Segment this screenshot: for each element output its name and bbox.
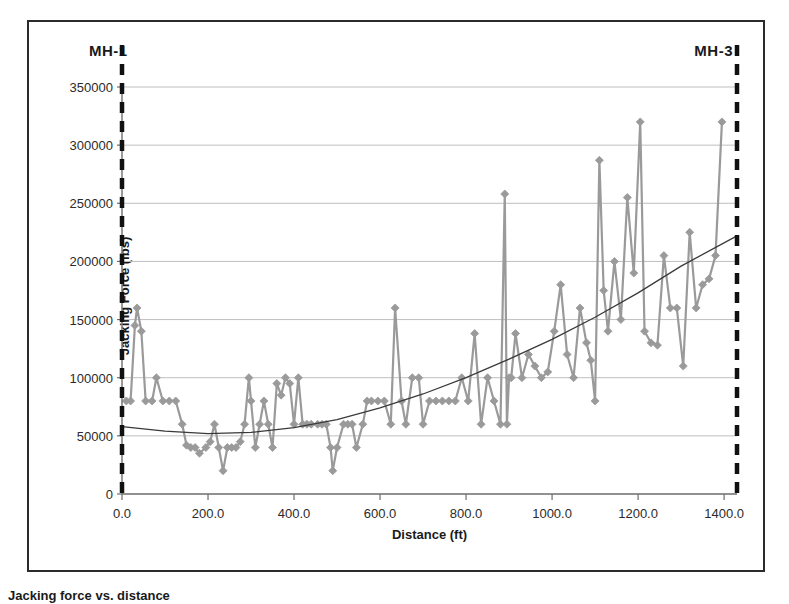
data-point-marker <box>711 252 719 260</box>
x-tick-marks <box>122 494 724 500</box>
data-point-marker <box>273 380 281 388</box>
data-point-marker <box>137 327 145 335</box>
data-point-marker <box>518 374 526 382</box>
data-point-marker <box>131 321 139 329</box>
data-point-marker <box>152 374 160 382</box>
data-series-markers <box>122 118 726 475</box>
data-point-marker <box>512 330 520 338</box>
data-point-marker <box>172 397 180 405</box>
x-axis-title: Distance (ft) <box>122 527 737 542</box>
data-point-marker <box>718 118 726 126</box>
data-point-marker <box>133 304 141 312</box>
data-point-marker <box>503 420 511 428</box>
data-point-marker <box>563 350 571 358</box>
data-point-marker <box>623 193 631 201</box>
data-point-marker <box>178 420 186 428</box>
x-tick-label: 600.0 <box>364 506 397 521</box>
data-point-marker <box>277 391 285 399</box>
data-point-marker <box>591 397 599 405</box>
data-point-marker <box>610 257 618 265</box>
y-tick-label: 100000 <box>70 370 113 385</box>
data-point-marker <box>557 281 565 289</box>
data-point-marker <box>484 374 492 382</box>
x-tick-label: 0.0 <box>113 506 131 521</box>
data-point-marker <box>333 443 341 451</box>
y-tick-label: 300000 <box>70 138 113 153</box>
plot-area: 0500001000001500002000002500003000003500… <box>122 87 737 494</box>
y-tick-label: 350000 <box>70 80 113 95</box>
data-point-marker <box>477 420 485 428</box>
data-point-marker <box>294 374 302 382</box>
data-point-marker <box>576 304 584 312</box>
x-tick-label: 1400.0 <box>704 506 744 521</box>
data-point-marker <box>617 316 625 324</box>
data-point-marker <box>419 420 427 428</box>
data-point-marker <box>387 420 395 428</box>
data-point-marker <box>582 339 590 347</box>
manhole-label-end: MH-3 <box>694 42 733 59</box>
data-point-marker <box>402 420 410 428</box>
y-tick-label: 200000 <box>70 254 113 269</box>
data-point-marker <box>471 330 479 338</box>
data-point-marker <box>245 374 253 382</box>
data-point-marker <box>630 269 638 277</box>
data-point-marker <box>241 420 249 428</box>
gridlines <box>122 87 737 436</box>
y-tick-label: 250000 <box>70 196 113 211</box>
y-tick-label: 50000 <box>77 428 113 443</box>
data-point-marker <box>415 374 423 382</box>
data-point-marker <box>210 420 218 428</box>
data-point-marker <box>215 443 223 451</box>
figure-caption: Jacking force vs. distance <box>8 588 170 603</box>
data-point-marker <box>380 397 388 405</box>
data-point-marker <box>219 467 227 475</box>
data-point-marker <box>501 190 509 198</box>
x-tick-label: 200.0 <box>192 506 225 521</box>
x-tick-label: 1200.0 <box>618 506 658 521</box>
data-point-marker <box>673 304 681 312</box>
x-tick-label: 800.0 <box>450 506 483 521</box>
data-point-marker <box>329 467 337 475</box>
data-point-marker <box>570 374 578 382</box>
data-point-marker <box>269 443 277 451</box>
x-tick-label: 400.0 <box>278 506 311 521</box>
data-point-marker <box>604 327 612 335</box>
data-point-marker <box>587 356 595 364</box>
data-point-marker <box>550 327 558 335</box>
data-point-marker <box>264 420 272 428</box>
data-point-marker <box>256 420 264 428</box>
data-point-marker <box>595 156 603 164</box>
data-point-marker <box>660 252 668 260</box>
data-point-marker <box>260 397 268 405</box>
data-point-marker <box>148 397 156 405</box>
data-point-marker <box>391 304 399 312</box>
data-point-marker <box>247 397 255 405</box>
chart-canvas <box>122 87 737 494</box>
x-tick-label: 1000.0 <box>532 506 572 521</box>
data-point-marker <box>490 397 498 405</box>
data-point-marker <box>636 118 644 126</box>
data-point-marker <box>686 228 694 236</box>
data-point-marker <box>352 443 360 451</box>
y-tick-label: 150000 <box>70 312 113 327</box>
y-tick-label: 0 <box>106 487 113 502</box>
data-point-marker <box>464 397 472 405</box>
data-point-marker <box>359 420 367 428</box>
data-point-marker <box>692 304 700 312</box>
data-point-marker <box>451 397 459 405</box>
data-point-marker <box>251 443 259 451</box>
figure-frame: MH-1 MH-3 Jacking Force (lbs) Distance (… <box>27 20 765 572</box>
data-point-marker <box>679 362 687 370</box>
data-point-marker <box>600 287 608 295</box>
